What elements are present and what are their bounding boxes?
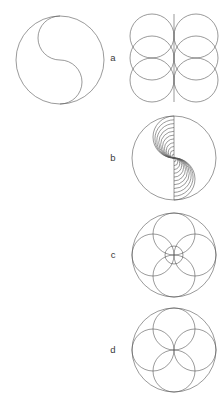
figure-canvas: a b c d bbox=[0, 0, 222, 398]
main-s-curve-figure bbox=[16, 16, 104, 104]
rosette-petal-circle bbox=[153, 350, 195, 392]
figure-label-a: a bbox=[110, 52, 116, 63]
rosette-petal-circle bbox=[132, 234, 174, 276]
rosette-petal-circle bbox=[153, 213, 195, 255]
figure-d-rosette-centered bbox=[132, 308, 216, 392]
figure-label-d: d bbox=[110, 344, 115, 355]
main-s-curve bbox=[38, 16, 82, 104]
figure-label-b: b bbox=[110, 152, 115, 163]
figure-c-rosette-offset bbox=[132, 213, 216, 297]
rosette-petal-circle bbox=[132, 329, 174, 371]
rosette-petal-circle bbox=[153, 308, 195, 350]
rosette-petal-circle bbox=[174, 329, 216, 371]
figure-label-c: c bbox=[111, 249, 116, 260]
rosette-petal-circle bbox=[153, 255, 195, 297]
rosette-petal-circle bbox=[174, 234, 216, 276]
figure-b-nested-spiral bbox=[132, 116, 216, 200]
figure-a-circle-grid bbox=[130, 14, 218, 102]
